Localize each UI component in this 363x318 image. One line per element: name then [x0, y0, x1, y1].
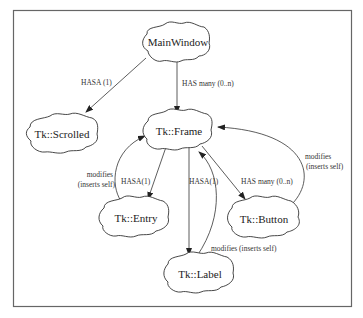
- edge-frame-entry: [148, 147, 166, 199]
- edge-label-hasa-label: HASA(1): [189, 177, 219, 186]
- node-mainwindow-label: MainWindow: [148, 36, 209, 48]
- node-scrolled-label: Tk::Scrolled: [35, 128, 90, 140]
- edge-label-hasmany-button: HAS many (0..n): [241, 177, 293, 186]
- node-button-label: Tk::Button: [240, 213, 289, 225]
- edge-label-modifies-entry-2: (inserts self): [78, 180, 116, 189]
- edge-label-modifies-entry-1: modifies: [87, 170, 113, 179]
- edge-label-hasa-entry: HASA(1): [121, 177, 151, 186]
- edge-label-modifies-button-2: (inserts self): [306, 162, 344, 171]
- edge-label-frame: [197, 152, 216, 256]
- diagram-canvas: MainWindow Tk::Scrolled Tk::Frame Tk::En…: [0, 0, 363, 318]
- edge-frame-button: [202, 146, 245, 199]
- node-label-label: Tk::Label: [178, 268, 221, 280]
- edge-label-hasmany-frame: HAS many (0..n): [182, 79, 234, 88]
- edge-entry-frame: [115, 136, 145, 201]
- node-frame-label: Tk::Frame: [156, 125, 203, 137]
- edge-label-modifies-button-1: modifies: [305, 152, 331, 161]
- edge-label-hasa-scrolled: HASA (1): [81, 78, 112, 87]
- node-entry-label: Tk::Entry: [115, 212, 158, 224]
- edge-label-modifies-label: modifies (inserts self): [211, 244, 277, 253]
- edge-button-frame: [218, 127, 304, 206]
